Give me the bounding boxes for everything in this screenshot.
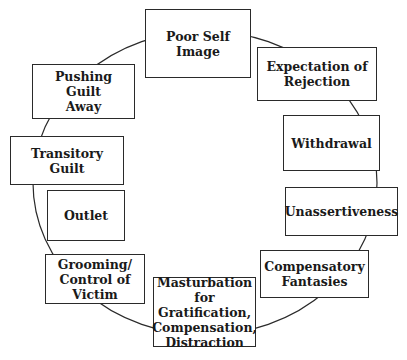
node-label: Transitory Guilt bbox=[15, 146, 119, 176]
node-masturbation: Masturbation for Gratification, Compensa… bbox=[153, 277, 256, 347]
node-transitory-guilt: Transitory Guilt bbox=[10, 136, 124, 185]
node-pushing-guilt-away: Pushing Guilt Away bbox=[32, 64, 135, 119]
node-outlet: Outlet bbox=[47, 190, 125, 241]
node-label: Unassertiveness bbox=[285, 204, 399, 219]
node-withdrawal: Withdrawal bbox=[283, 115, 380, 171]
node-compensatory-fantasies: Compensatory Fantasies bbox=[260, 250, 369, 298]
node-expectation-of-rejection: Expectation of Rejection bbox=[257, 47, 377, 101]
node-label: Compensatory Fantasies bbox=[264, 259, 364, 289]
node-label: Poor Self Image bbox=[166, 29, 230, 59]
node-label: Withdrawal bbox=[291, 136, 371, 151]
node-label: Outlet bbox=[64, 208, 108, 223]
node-label: Expectation of Rejection bbox=[266, 59, 367, 89]
node-unassertiveness: Unassertiveness bbox=[285, 187, 398, 236]
cycle-diagram: Poor Self Image Expectation of Rejection… bbox=[0, 0, 407, 360]
node-poor-self-image: Poor Self Image bbox=[145, 9, 251, 78]
node-label: Grooming/ Control of Victim bbox=[58, 257, 132, 302]
node-label: Pushing Guilt Away bbox=[37, 69, 130, 114]
node-label: Masturbation for Gratification, Compensa… bbox=[152, 275, 257, 350]
node-grooming-control-of-victim: Grooming/ Control of Victim bbox=[45, 254, 145, 304]
